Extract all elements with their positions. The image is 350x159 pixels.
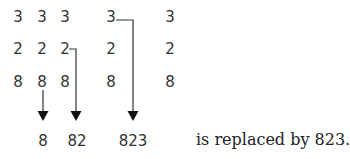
result-823: 823 <box>119 134 148 149</box>
result-82: 82 <box>67 134 86 149</box>
arrow-col4-3 <box>116 20 139 121</box>
caption: is replaced by 823. <box>196 132 350 148</box>
arrow-col3-2 <box>69 49 82 121</box>
arrow-col2-8 <box>38 90 49 121</box>
arrowhead-icon <box>128 111 139 121</box>
arrowhead-icon <box>38 111 49 121</box>
arrowhead-icon <box>71 111 82 121</box>
result-8: 8 <box>38 134 48 149</box>
